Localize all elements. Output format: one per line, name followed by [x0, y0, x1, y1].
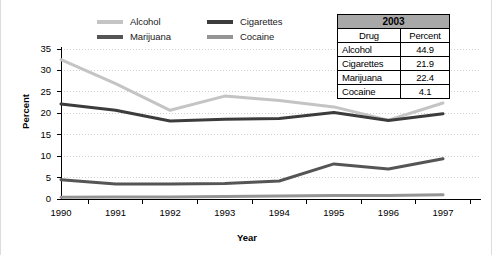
- x-tick-label: 1995: [314, 208, 354, 217]
- summary-table: 2003DrugPercentAlcohol44.9Cigarettes21.9…: [337, 14, 450, 99]
- table-row: Cocaine4.1: [338, 85, 450, 99]
- y-tick-label: 0: [25, 194, 51, 203]
- x-tick-label: 1994: [259, 208, 299, 217]
- table-cell-percent: 22.4: [401, 71, 450, 85]
- x-tick-label: 1990: [41, 208, 81, 217]
- table-cell-percent: 44.9: [401, 43, 450, 57]
- chart-figure: Alcohol Cigarettes Marijuana Cocaine 051…: [0, 0, 492, 255]
- table-year-header: 2003: [338, 15, 450, 29]
- table-column-header-row: DrugPercent: [338, 29, 450, 43]
- table-cell-drug: Marijuana: [338, 71, 401, 85]
- table-column-header: Drug: [338, 29, 401, 43]
- table-column-header: Percent: [401, 29, 450, 43]
- y-tick-label: 35: [25, 44, 51, 53]
- table-row: Marijuana22.4: [338, 71, 450, 85]
- x-tick-label: 1993: [205, 208, 245, 217]
- x-tick-label: 1992: [150, 208, 190, 217]
- y-axis-title: Percent: [20, 82, 31, 142]
- table-cell-percent: 4.1: [401, 85, 450, 99]
- x-tick-label: 1991: [96, 208, 136, 217]
- table-cell-drug: Cocaine: [338, 85, 401, 99]
- table-cell-percent: 21.9: [401, 57, 450, 71]
- table-cell-drug: Alcohol: [338, 43, 401, 57]
- y-tick-label: 5: [25, 173, 51, 182]
- y-tick-label: 30: [25, 65, 51, 74]
- x-axis-title: Year: [1, 232, 492, 243]
- table-header-row: 2003: [338, 15, 450, 29]
- y-tick-label: 10: [25, 151, 51, 160]
- table-row: Alcohol44.9: [338, 43, 450, 57]
- x-tick-label: 1997: [423, 208, 463, 217]
- x-tick-label: 1996: [368, 208, 408, 217]
- table-row: Cigarettes21.9: [338, 57, 450, 71]
- table-cell-drug: Cigarettes: [338, 57, 401, 71]
